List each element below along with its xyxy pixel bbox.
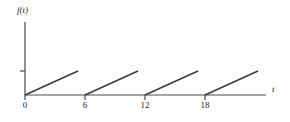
ramp-segment-1 — [25, 71, 78, 95]
ramp-segment-3 — [145, 71, 198, 95]
x-tick-label-18: 18 — [195, 101, 215, 110]
sawtooth-series — [25, 71, 258, 95]
ramp-segment-2 — [85, 71, 138, 95]
x-tick-label-0: 0 — [15, 101, 35, 110]
x-tick-label-12: 12 — [135, 101, 155, 110]
x-axis-label: t — [272, 85, 275, 94]
sawtooth-waveform-figure: f(t) t 0 6 12 18 — [0, 0, 290, 122]
ramp-segment-4 — [205, 71, 258, 95]
y-axis-label: f(t) — [17, 6, 28, 15]
x-tick-label-6: 6 — [75, 101, 95, 110]
x-axis-ticks — [25, 95, 205, 100]
